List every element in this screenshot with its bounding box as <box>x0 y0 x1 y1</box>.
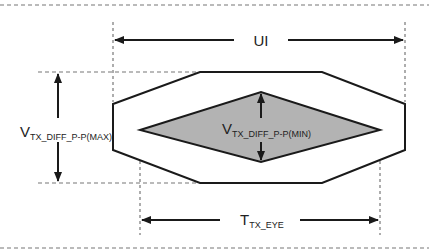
ui-label: UI <box>254 32 269 49</box>
eye-diagram: UI VTX_DIFF_P-P(MAX) VTX_DIFF_P-P(MIN) T… <box>0 0 429 252</box>
teye-label: TTX_EYE <box>240 211 284 230</box>
vmax-label: VTX_DIFF_P-P(MAX) <box>20 123 112 142</box>
